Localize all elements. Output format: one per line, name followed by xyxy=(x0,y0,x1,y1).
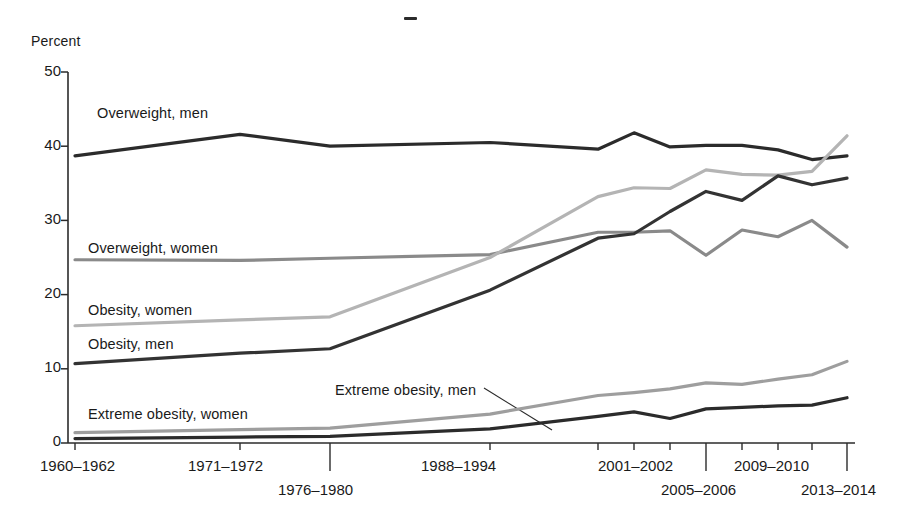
chart-figure: Percent 50 40 30 20 10 0 1960–1962 1971–… xyxy=(0,0,911,523)
plot-area xyxy=(0,0,911,523)
y-axis-ticks xyxy=(61,72,68,443)
series-line-obesity-women xyxy=(75,136,847,326)
axis-lines xyxy=(68,72,855,443)
series-lines xyxy=(75,133,847,439)
series-line-overweight-men xyxy=(75,133,847,160)
series-line-extreme-obesity-women xyxy=(75,361,847,432)
series-line-overweight-women xyxy=(75,220,847,260)
x-axis-ticks xyxy=(75,443,847,471)
